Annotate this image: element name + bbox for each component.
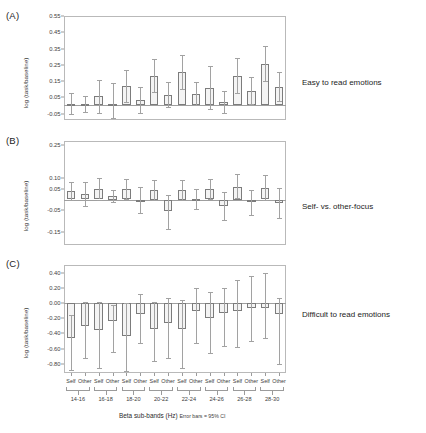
error-bar-cap xyxy=(235,347,240,348)
x-tick-mark xyxy=(85,373,86,376)
error-bar xyxy=(224,288,225,346)
band-brace-stem xyxy=(272,391,273,395)
error-bar-cap xyxy=(208,179,213,180)
x-tick-label-focus: Self xyxy=(177,378,186,384)
y-tick-mark xyxy=(61,188,64,189)
error-bar-cap xyxy=(263,338,268,339)
x-axis-error-note: Error bars = 95% CI xyxy=(179,413,225,419)
error-bar-cap xyxy=(263,46,268,47)
error-bar xyxy=(154,302,155,361)
x-tick-label-focus: Self xyxy=(233,378,242,384)
error-bar xyxy=(279,188,280,218)
error-bar-cap xyxy=(249,215,254,216)
error-bar-cap xyxy=(263,273,268,274)
y-axis-title-c: log (task/baseline) xyxy=(22,308,29,358)
error-bar xyxy=(279,298,280,363)
x-tick-mark xyxy=(182,373,183,376)
error-bar xyxy=(168,298,169,357)
error-bar-cap xyxy=(180,89,185,90)
error-bar-cap xyxy=(111,83,116,84)
error-bar-cap xyxy=(69,114,74,115)
y-tick-mark xyxy=(61,177,64,178)
x-tick-label-focus: Other xyxy=(106,378,119,384)
error-bar-cap xyxy=(152,361,157,362)
panel-easy-to-read-emotions: 0.550.450.350.250.150.05-0.05 xyxy=(64,16,286,120)
error-bar xyxy=(251,276,252,341)
error-bar xyxy=(71,315,72,370)
panel-self-vs-other-focus: 0.250.100.05-0.05-0.15 xyxy=(64,141,286,245)
error-bar-cap xyxy=(138,213,143,214)
error-bar-cap xyxy=(235,58,240,59)
band-label: 28-30 xyxy=(265,396,279,402)
error-bar-cap xyxy=(277,72,282,73)
error-bar xyxy=(85,302,86,358)
error-bar xyxy=(99,302,100,369)
error-bar-cap xyxy=(83,302,88,303)
error-bar-cap xyxy=(208,292,213,293)
error-bar-cap xyxy=(69,182,74,183)
error-bar-cap xyxy=(111,190,116,191)
error-bar xyxy=(210,292,211,353)
error-bar-cap xyxy=(97,178,102,179)
x-axis-title-group: Beta sub-bands (Hz) Error bars = 95% CI xyxy=(119,412,225,419)
error-bar xyxy=(251,77,252,104)
band-brace-stem xyxy=(217,391,218,395)
band-label: 24-26 xyxy=(209,396,223,402)
panel-letter-c: (C) xyxy=(6,258,20,269)
error-bar-cap xyxy=(277,364,282,365)
error-bar-cap xyxy=(83,182,88,183)
error-bar-cap xyxy=(222,220,227,221)
error-bar-cap xyxy=(152,200,157,201)
error-bar xyxy=(113,305,114,352)
x-tick-mark xyxy=(237,373,238,376)
error-bar-cap xyxy=(235,198,240,199)
error-bar xyxy=(99,80,100,113)
error-bar-cap xyxy=(235,280,240,281)
error-bar-cap xyxy=(166,82,171,83)
error-bar-cap xyxy=(152,59,157,60)
error-bar-cap xyxy=(208,109,213,110)
error-bar-cap xyxy=(138,87,143,88)
error-bar xyxy=(224,91,225,113)
error-bar-cap xyxy=(249,77,254,78)
error-bar-cap xyxy=(83,358,88,359)
side-label-self-other: Self- vs. other-focus xyxy=(302,202,373,211)
y-tick-mark xyxy=(61,363,64,364)
error-bar-cap xyxy=(180,180,185,181)
x-tick-mark xyxy=(168,373,169,376)
band-label: 14-16 xyxy=(71,396,85,402)
bar-series-c xyxy=(64,265,286,373)
side-label-difficult: Difficult to read emotions xyxy=(302,310,390,319)
error-bar xyxy=(196,189,197,209)
error-bar-cap xyxy=(83,112,88,113)
error-bar-cap xyxy=(138,113,143,114)
x-tick-label-focus: Other xyxy=(217,378,230,384)
bar-series-a xyxy=(64,16,286,120)
x-tick-label-focus: Self xyxy=(261,378,270,384)
error-bar-cap xyxy=(194,288,199,289)
error-bar-cap xyxy=(69,370,74,371)
error-bar-cap xyxy=(180,368,185,369)
panel-difficult-to-read-emotions: 0.400.200.00-0.20-0.40-0.60-0.80 SelfOth… xyxy=(64,265,286,373)
error-bar xyxy=(196,288,197,343)
error-bar-cap xyxy=(124,303,129,304)
error-bar xyxy=(126,70,127,102)
x-tick-mark xyxy=(251,373,252,376)
error-bar xyxy=(168,195,169,229)
x-tick-label-focus: Self xyxy=(66,378,75,384)
error-bar-cap xyxy=(69,315,74,316)
error-bar-cap xyxy=(152,180,157,181)
panel-letter-a: (A) xyxy=(6,10,19,21)
error-bar-cap xyxy=(222,192,227,193)
error-bar xyxy=(210,66,211,109)
zero-baseline xyxy=(64,105,286,106)
error-bar-cap xyxy=(166,358,171,359)
x-tick-label-focus: Self xyxy=(122,378,131,384)
x-tick-mark xyxy=(265,373,266,376)
error-bar xyxy=(210,179,211,199)
error-bar xyxy=(182,55,183,89)
error-bar-cap xyxy=(97,302,102,303)
error-bar xyxy=(182,180,183,200)
band-label: 18-20 xyxy=(126,396,140,402)
error-bar xyxy=(265,46,266,81)
